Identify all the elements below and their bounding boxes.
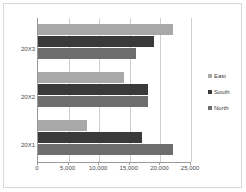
legend-label: East	[214, 73, 226, 79]
x-axis-tick-labels: 05,00010,00015,00020,00025,000	[37, 165, 190, 179]
legend-item-south[interactable]: South	[208, 88, 242, 95]
legend-item-east[interactable]: East	[208, 72, 242, 79]
y-axis-label-20x3: 20X3	[7, 46, 35, 52]
legend-label: North	[214, 105, 229, 111]
legend-swatch-icon	[208, 74, 212, 78]
bar-east-20x1[interactable]	[38, 120, 87, 131]
chart-legend: EastSouthNorth	[208, 72, 242, 120]
bar-south-20x3[interactable]	[38, 36, 154, 47]
legend-swatch-icon	[208, 90, 212, 94]
x-axis-tick-label: 10,000	[89, 165, 107, 171]
bar-group	[38, 24, 190, 60]
x-axis-tick-label: 15,000	[120, 165, 138, 171]
chart-container: 20X320X220X1 05,00010,00015,00020,00025,…	[3, 3, 242, 188]
x-axis-tick-label: 25,000	[181, 165, 199, 171]
bar-south-20x1[interactable]	[38, 132, 142, 143]
legend-label: South	[214, 89, 230, 95]
bar-north-20x2[interactable]	[38, 96, 148, 107]
bar-south-20x2[interactable]	[38, 84, 148, 95]
gridline	[191, 18, 192, 162]
y-axis-label-20x2: 20X2	[7, 94, 35, 100]
bar-group	[38, 120, 190, 156]
x-axis-tick-label: 0	[35, 165, 38, 171]
x-axis-tick-label: 20,000	[150, 165, 168, 171]
x-axis-tick-label: 5,000	[60, 165, 75, 171]
bar-east-20x2[interactable]	[38, 72, 124, 83]
legend-swatch-icon	[208, 106, 212, 110]
y-axis-label-20x1: 20X1	[7, 142, 35, 148]
bar-north-20x3[interactable]	[38, 48, 136, 59]
plot-area	[37, 18, 190, 163]
y-axis-category-labels: 20X320X220X1	[4, 18, 35, 163]
bar-east-20x3[interactable]	[38, 24, 173, 35]
bar-group	[38, 72, 190, 108]
bar-north-20x1[interactable]	[38, 144, 173, 155]
legend-item-north[interactable]: North	[208, 104, 242, 111]
